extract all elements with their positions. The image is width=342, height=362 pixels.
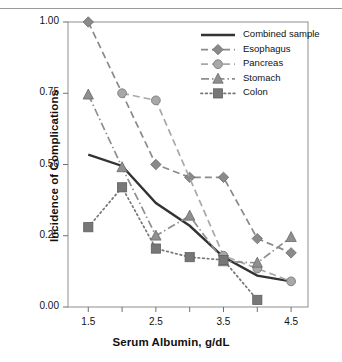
series-line-pancreas [122, 93, 291, 281]
legend-item-esophagus: Esophagus [243, 43, 291, 54]
x-tick-label: 1.5 [68, 316, 108, 327]
y-tick-label: 0.75 [19, 86, 59, 97]
series-markers-pancreas [118, 89, 296, 286]
x-tick-label: 3.5 [203, 316, 243, 327]
y-tick-label: 0.50 [19, 158, 59, 169]
y-tick-label: 1.00 [19, 15, 59, 26]
y-tick-label: 0.00 [19, 300, 59, 311]
legend-item-stomach: Stomach [243, 72, 281, 83]
x-axis-title: Serum Albumin, g/dL [0, 336, 342, 348]
x-tick-label: 4.5 [271, 316, 311, 327]
y-tick-label: 0.25 [19, 229, 59, 240]
figure-container: Serum Albumin, g/dL Incidence of Complic… [0, 0, 342, 362]
legend-glyphs [201, 35, 235, 98]
legend-item-colon: Colon [243, 86, 268, 97]
series-line-colon [88, 187, 257, 300]
legend-item-pancreas: Pancreas [243, 57, 283, 68]
legend-item-combined-sample: Combined sample [243, 28, 320, 39]
x-tick-label: 2.5 [136, 316, 176, 327]
